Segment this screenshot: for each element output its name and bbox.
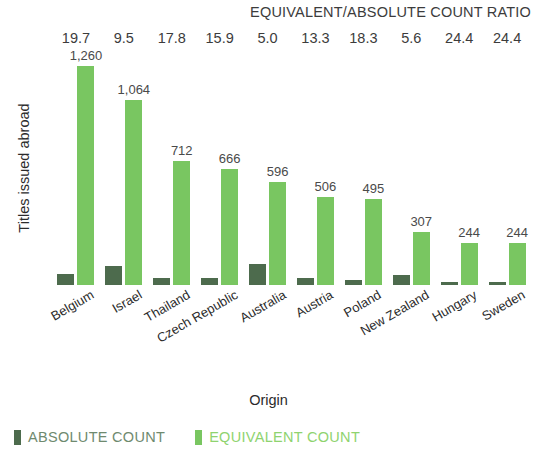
bar-value-label: 307: [410, 214, 432, 229]
x-axis-labels: BelgiumIsraelThailandCzech RepublicAustr…: [52, 287, 531, 357]
ratio-value: 5.0: [244, 30, 292, 50]
bar-equivalent-count: [461, 243, 478, 285]
bar-group: 506: [292, 56, 340, 285]
ratio-value: 18.3: [339, 30, 387, 50]
bar-value-label: 596: [267, 164, 289, 179]
chart-legend: ABSOLUTE COUNT EQUIVALENT COUNT: [14, 429, 360, 445]
x-axis-category-label: Belgium: [48, 287, 96, 323]
x-axis-title: Origin: [0, 392, 537, 408]
bar-equivalent-count: [77, 66, 94, 285]
x-axis-category-label: Australia: [237, 287, 288, 325]
bar-equivalent-count: [365, 199, 382, 285]
bar-value-label: 1,260: [70, 48, 103, 63]
legend-item-equivalent: EQUIVALENT COUNT: [195, 429, 360, 445]
ratio-value: 9.5: [100, 30, 148, 50]
bar-value-label: 666: [219, 151, 241, 166]
y-axis-title: Titles issued abroad: [16, 58, 32, 278]
bar-equivalent-count: [173, 161, 190, 285]
bar-value-label: 712: [171, 143, 193, 158]
bar-absolute-count: [489, 282, 506, 285]
ratio-value: 13.3: [292, 30, 340, 50]
ratio-value: 17.8: [148, 30, 196, 50]
bar-group: 712: [148, 56, 196, 285]
bar-equivalent-count: [269, 182, 286, 285]
bar-absolute-count: [297, 278, 314, 285]
bar-group: 244: [435, 56, 483, 285]
bar-group: 307: [387, 56, 435, 285]
bar-absolute-count: [153, 278, 170, 285]
bar-group: 244: [483, 56, 531, 285]
x-axis-category-label: Hungary: [430, 287, 480, 325]
bar-absolute-count: [393, 275, 410, 285]
bar-value-label: 244: [506, 225, 528, 240]
legend-swatch-absolute-icon: [14, 430, 21, 445]
bar-group: 1,260: [52, 56, 100, 285]
bar-equivalent-count: [413, 232, 430, 285]
legend-label-absolute: ABSOLUTE COUNT: [28, 429, 165, 445]
bar-equivalent-count: [509, 243, 526, 285]
bar-absolute-count: [249, 264, 266, 285]
bar-value-label: 495: [362, 181, 384, 196]
bar-group: 666: [196, 56, 244, 285]
ratio-header-title: EQUIVALENT/ABSOLUTE COUNT RATIO: [250, 4, 531, 20]
x-axis-category-label: Israel: [109, 287, 144, 316]
ratio-value: 24.4: [483, 30, 531, 50]
ratio-value: 19.7: [52, 30, 100, 50]
bar-absolute-count: [441, 282, 458, 285]
ratio-value: 15.9: [196, 30, 244, 50]
bar-absolute-count: [105, 266, 122, 285]
legend-item-absolute: ABSOLUTE COUNT: [14, 429, 165, 445]
plot-area: 1,2601,064712666596506495307244244: [52, 56, 531, 285]
bar-value-label: 1,064: [118, 82, 151, 97]
bar-chart: EQUIVALENT/ABSOLUTE COUNT RATIO 19.79.51…: [0, 0, 537, 457]
bar-absolute-count: [201, 278, 218, 285]
bar-group: 596: [244, 56, 292, 285]
bar-absolute-count: [57, 274, 74, 285]
legend-label-equivalent: EQUIVALENT COUNT: [209, 429, 360, 445]
bar-absolute-count: [345, 280, 362, 285]
ratio-value: 24.4: [435, 30, 483, 50]
bar-group: 495: [339, 56, 387, 285]
bar-group: 1,064: [100, 56, 148, 285]
ratio-values-row: 19.79.517.815.95.013.318.35.624.424.4: [52, 30, 531, 50]
bar-equivalent-count: [317, 197, 334, 285]
bar-value-label: 506: [315, 179, 337, 194]
bar-equivalent-count: [125, 100, 142, 285]
bar-equivalent-count: [221, 169, 238, 285]
legend-swatch-equivalent-icon: [195, 430, 202, 445]
x-axis-category-label: Austria: [293, 287, 336, 320]
x-axis-category-label: Sweden: [479, 287, 527, 323]
x-axis-category-label: Czech Republic: [154, 287, 240, 346]
bar-value-label: 244: [458, 225, 480, 240]
ratio-value: 5.6: [387, 30, 435, 50]
